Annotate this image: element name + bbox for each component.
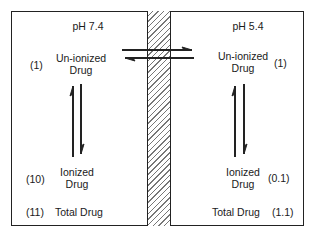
arrow-right-icon [122, 47, 192, 50]
arrows-layer [0, 0, 315, 235]
arrow-up-icon [232, 86, 235, 157]
arrow-up-icon [70, 86, 73, 157]
arrow-down-icon [81, 84, 84, 154]
arrow-down-icon [244, 84, 247, 154]
arrow-left-icon [125, 58, 194, 61]
